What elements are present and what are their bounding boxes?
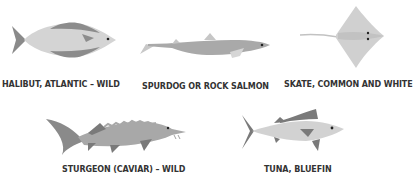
skate-icon [298,4,388,69]
fish-card-sturgeon: STURGEON (CAVIAR) – WILD [0,95,210,189]
fish-card-skate: SKATE, COMMON AND WHITE [280,0,419,95]
fish-label: SKATE, COMMON AND WHITE [284,80,413,89]
fish-label: STURGEON (CAVIAR) – WILD [62,165,185,174]
fish-card-spurdog: SPURDOG OR ROCK SALMON [130,0,290,95]
spurdog-icon [132,32,272,62]
halibut-icon [10,20,120,60]
fish-label: HALIBUT, ATLANTIC – WILD [2,80,120,89]
fish-card-halibut: HALIBUT, ATLANTIC – WILD [0,0,140,95]
tuna-icon [240,107,345,157]
fish-card-tuna: TUNA, BLUEFIN [200,95,419,189]
fish-label: SPURDOG OR ROCK SALMON [142,82,269,91]
sturgeon-icon [44,115,189,160]
fish-label: TUNA, BLUEFIN [264,165,332,174]
